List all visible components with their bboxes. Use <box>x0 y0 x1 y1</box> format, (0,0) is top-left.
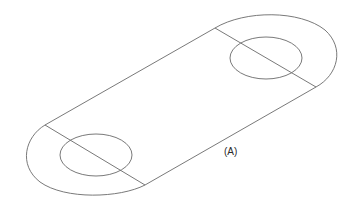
left-end-arc <box>26 125 145 195</box>
figure-label: (A) <box>224 146 237 157</box>
isometric-plate-drawing <box>0 0 353 207</box>
right-end-arc <box>215 15 337 87</box>
top-edge-line <box>45 28 215 125</box>
bottom-edge-line <box>145 87 316 185</box>
left-hole <box>60 134 132 176</box>
